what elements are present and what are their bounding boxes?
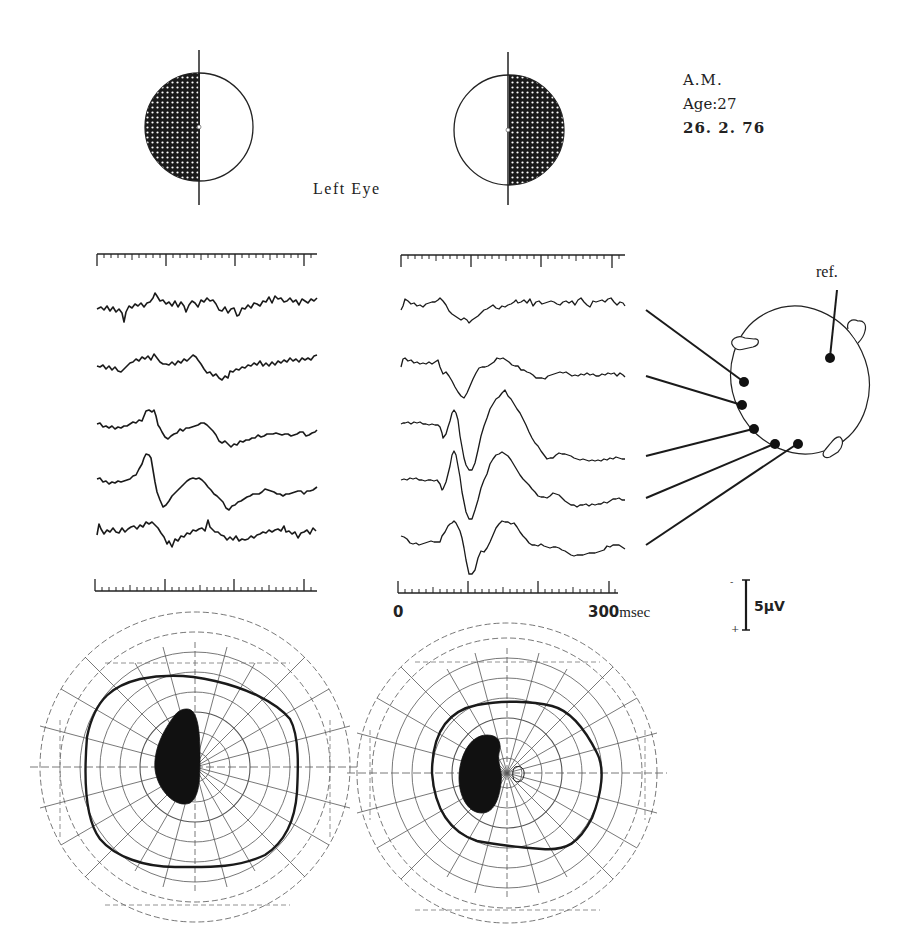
trace-left-5 [97, 520, 316, 547]
time-axis-top-right [401, 255, 625, 268]
amplitude-scale-label: 5μV [754, 598, 785, 614]
reference-electrode-label: ref. [816, 263, 838, 281]
time-axis-top-left [97, 254, 317, 266]
trace-left-1 [97, 293, 317, 322]
time-axis-end-label: 300msec [588, 603, 650, 621]
time-axis-bottom-left [95, 579, 317, 591]
traces-right-column [401, 298, 625, 574]
trace-right-5 [401, 521, 625, 574]
eye-label: Left Eye [313, 180, 381, 198]
patient-info: A.M. Age:27 26. 2. 76 [683, 68, 765, 140]
electrodes [737, 353, 835, 449]
stimulus-left-half-field [145, 50, 253, 205]
time-axis-end-value: 300 [588, 603, 619, 621]
blind-spot-right [459, 735, 501, 813]
traces-left-column [97, 293, 317, 547]
ear-bottom [823, 437, 842, 458]
trace-right-4 [401, 451, 625, 519]
electrode-2 [737, 400, 747, 410]
trace-left-2 [97, 354, 317, 380]
electrode-5 [793, 439, 803, 449]
recording-date: 26. 2. 76 [683, 116, 765, 140]
stimulus-right-half-field [454, 52, 564, 205]
trace-right-3 [401, 390, 625, 470]
electrode-1 [739, 377, 749, 387]
trace-right-1 [401, 298, 625, 323]
time-axis-bottom-right [398, 581, 618, 593]
electrode-leads [646, 290, 837, 545]
patient-initials: A.M. [683, 68, 765, 92]
figure-canvas [0, 0, 913, 947]
scale-minus-sign: - [730, 576, 733, 587]
trace-left-3 [97, 410, 317, 447]
visual-field-chart-right [347, 623, 667, 923]
scale-plus-sign: + [731, 623, 739, 634]
time-axis-unit: msec [619, 604, 650, 620]
trace-right-2 [401, 358, 625, 398]
nose [848, 320, 866, 343]
trace-left-4 [97, 454, 317, 510]
time-axis-start-label: 0 [393, 603, 403, 621]
amplitude-scale-bar [742, 580, 750, 630]
electrode-ref [825, 353, 835, 363]
visual-field-chart-left [30, 612, 360, 922]
ear-top [732, 337, 759, 350]
electrode-4 [770, 439, 780, 449]
patient-age: Age:27 [683, 92, 765, 116]
electrode-3 [749, 424, 759, 434]
